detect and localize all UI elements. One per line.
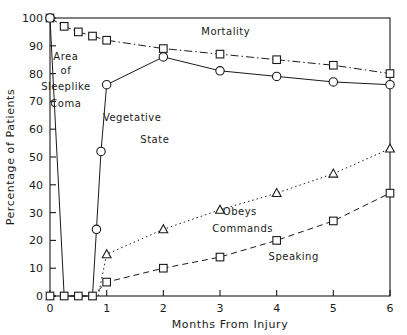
x-tick-label: 6 bbox=[387, 302, 394, 315]
y-tick-label: 30 bbox=[29, 207, 43, 220]
data-point-square bbox=[160, 45, 168, 53]
data-point-circle bbox=[216, 67, 224, 75]
data-point-square bbox=[386, 70, 394, 78]
y-tick-label: 40 bbox=[29, 179, 43, 192]
data-point-square bbox=[89, 292, 97, 300]
x-tick-label: 4 bbox=[273, 302, 280, 315]
x-tick-label: 3 bbox=[217, 302, 224, 315]
x-tick-label: 0 bbox=[47, 302, 54, 315]
y-tick-label: 50 bbox=[29, 151, 43, 164]
data-point-square bbox=[60, 23, 68, 31]
data-point-square bbox=[216, 50, 224, 58]
y-tick-label: 100 bbox=[22, 12, 43, 25]
data-point-square bbox=[75, 28, 83, 36]
data-point-triangle bbox=[329, 169, 338, 177]
data-point-square bbox=[160, 264, 168, 272]
x-tick-label: 1 bbox=[103, 302, 110, 315]
data-point-circle bbox=[46, 14, 54, 22]
data-point-square bbox=[60, 292, 68, 300]
data-point-triangle bbox=[159, 225, 168, 233]
x-tick-label: 5 bbox=[330, 302, 337, 315]
data-point-circle bbox=[272, 72, 280, 80]
data-point-square bbox=[386, 189, 394, 197]
data-point-circle bbox=[386, 81, 394, 89]
data-point-square bbox=[330, 217, 338, 225]
x-tick-label: 2 bbox=[160, 302, 167, 315]
y-tick-label: 20 bbox=[29, 234, 43, 247]
data-point-square bbox=[46, 292, 54, 300]
data-point-triangle bbox=[272, 189, 281, 197]
chart-annotation: Coma bbox=[50, 98, 81, 109]
y-tick-label: 10 bbox=[29, 262, 43, 275]
chart-annotation: of bbox=[61, 65, 72, 76]
y-tick-label: 90 bbox=[29, 40, 43, 53]
data-point-square bbox=[103, 278, 111, 286]
chart-annotation: State bbox=[140, 134, 169, 145]
chart-annotation: Obeys bbox=[223, 206, 257, 217]
data-point-circle bbox=[92, 225, 100, 233]
chart-annotation: Vegetative bbox=[103, 112, 162, 123]
y-tick-label: 70 bbox=[29, 95, 43, 108]
patient-outcome-line-chart: 01020304050607080901000123456 AreaofSlee… bbox=[0, 0, 407, 335]
chart-annotation: Area bbox=[53, 51, 78, 62]
chart-container: 01020304050607080901000123456 AreaofSlee… bbox=[0, 0, 407, 335]
data-point-square bbox=[330, 61, 338, 69]
data-point-triangle bbox=[102, 250, 111, 258]
data-point-square bbox=[103, 36, 111, 44]
y-axis-title: Percentage of Patients bbox=[4, 89, 17, 226]
data-point-circle bbox=[97, 147, 105, 155]
chart-annotation: Sleeplike bbox=[41, 81, 90, 92]
data-point-square bbox=[273, 237, 281, 245]
series-layer bbox=[46, 14, 395, 300]
y-tick-label: 80 bbox=[29, 68, 43, 81]
data-point-square bbox=[89, 32, 97, 40]
chart-annotation: Speaking bbox=[269, 251, 319, 262]
data-point-circle bbox=[159, 53, 167, 61]
data-point-square bbox=[75, 292, 83, 300]
data-point-triangle bbox=[386, 144, 395, 152]
data-point-circle bbox=[102, 81, 110, 89]
chart-annotation: Commands bbox=[212, 223, 273, 234]
y-tick-label: 60 bbox=[29, 123, 43, 136]
x-axis-title: Months From Injury bbox=[172, 318, 289, 331]
data-point-square bbox=[216, 253, 224, 261]
data-point-circle bbox=[329, 78, 337, 86]
data-point-square bbox=[273, 56, 281, 64]
series-obeys-commands bbox=[98, 144, 394, 296]
y-tick-label: 0 bbox=[36, 290, 43, 303]
chart-annotation: Mortality bbox=[201, 26, 250, 37]
